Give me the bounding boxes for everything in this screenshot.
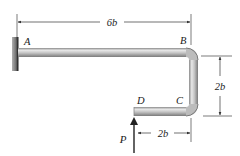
dimension-label-vertical: 2b [215,81,226,92]
load-label: P [119,133,127,145]
bent-bar [18,48,198,116]
point-label-b: B [180,35,187,46]
dimension-vertical-drop: 2b [201,56,232,116]
dimension-bottom-length: 2b [138,118,191,142]
fixed-support [12,37,18,71]
point-label-a: A [23,36,31,47]
point-label-c: C [176,95,184,106]
point-label-d: D [136,95,145,106]
dimension-label-top: 6b [107,17,118,28]
bent-bar-diagram: 6b 2b 2b P A B C D [0,0,240,156]
dimension-top-length: 6b [17,14,191,45]
dimension-label-bottom: 2b [158,128,169,139]
load-arrow-p: P [119,117,138,153]
